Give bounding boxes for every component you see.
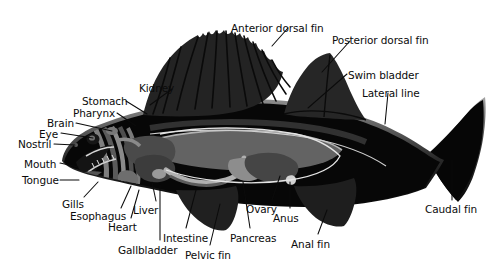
leader-gills (84, 182, 98, 197)
fish-anatomy-diagram: Anterior dorsal finPosterior dorsal finS… (0, 0, 498, 273)
leader-stomach (126, 101, 147, 114)
label-anterior-dorsal-fin: Anterior dorsal fin (231, 23, 324, 34)
label-gallbladder: Gallbladder (118, 245, 177, 256)
label-intestine: Intestine (163, 233, 208, 244)
label-kidney: Kidney (139, 83, 174, 94)
label-stomach: Stomach (82, 96, 128, 107)
label-pancreas: Pancreas (230, 233, 276, 244)
label-anal-fin: Anal fin (291, 239, 330, 250)
label-lateral-line: Lateral line (362, 88, 420, 99)
pelvic-fin-shape (176, 186, 238, 231)
label-pharynx: Pharynx (73, 108, 115, 119)
label-pelvic-fin: Pelvic fin (185, 250, 231, 261)
label-caudal-fin: Caudal fin (425, 204, 477, 215)
caudal-fin-shape (428, 97, 486, 202)
label-liver: Liver (133, 205, 158, 216)
posterior-dorsal-fin-shape (284, 53, 366, 120)
leader-esophagus (121, 186, 131, 208)
label-tongue: Tongue (22, 175, 59, 186)
label-heart: Heart (108, 222, 137, 233)
label-swim-bladder: Swim bladder (348, 70, 419, 81)
label-posterior-dorsal-fin: Posterior dorsal fin (332, 35, 429, 46)
label-anus: Anus (273, 213, 299, 224)
label-mouth: Mouth (24, 159, 56, 170)
label-nostril: Nostril (18, 139, 51, 150)
label-gills: Gills (62, 199, 84, 210)
